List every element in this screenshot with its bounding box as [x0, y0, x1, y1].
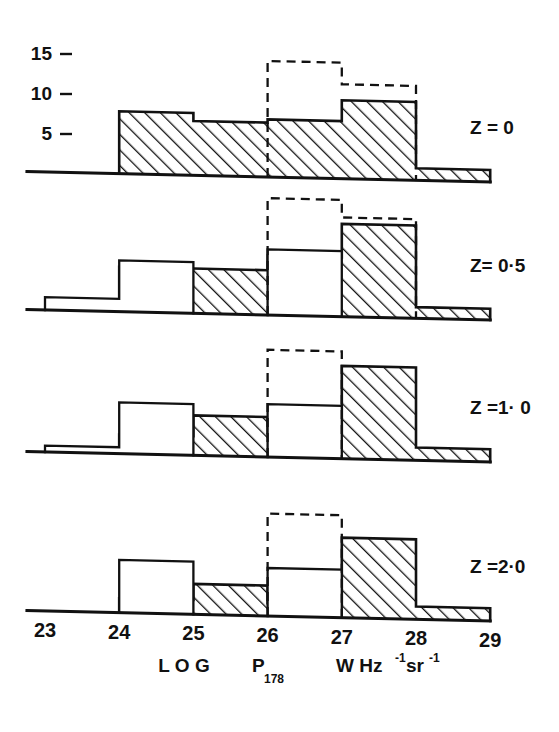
x-title-exponent-1: -1	[395, 651, 406, 665]
x-tick-label: 24	[108, 621, 131, 643]
panel-z-0-5: Z= 0·5	[27, 198, 526, 320]
outline-region-fill	[268, 404, 342, 459]
x-title-exponent-2: -1	[429, 651, 440, 665]
x-axis: 23242526272829	[34, 619, 501, 651]
panel-z-1: Z =1· 0	[27, 350, 531, 462]
x-tick-label: 25	[182, 622, 204, 644]
figure-root: Z = 0Z= 0·5Z =1· 0Z =2·0 151052324252627…	[0, 0, 559, 732]
panels-layer: Z = 0Z= 0·5Z =1· 0Z =2·0	[27, 61, 531, 621]
outline-region-fill	[268, 249, 342, 316]
x-tick-label: 27	[331, 626, 353, 648]
panel-z-label: Z =2·0	[470, 556, 525, 577]
outline-region-fill	[268, 568, 342, 618]
x-tick-label: 26	[256, 624, 278, 646]
y-tick-label: 10	[31, 83, 52, 104]
x-tick-label: 23	[34, 619, 56, 641]
panel-z-2: Z =2·0	[27, 514, 525, 621]
y-axis: 15105	[31, 43, 72, 144]
y-tick-label: 15	[31, 43, 53, 64]
y-tick-label: 5	[41, 123, 52, 144]
x-tick-label: 29	[479, 629, 501, 651]
x-title-units-sr: sr	[406, 655, 425, 676]
x-title-log: L O G	[158, 655, 209, 676]
panel-z-0: Z = 0	[27, 61, 514, 182]
histogram-figure: Z = 0Z= 0·5Z =1· 0Z =2·0 151052324252627…	[0, 0, 559, 732]
x-tick-label: 28	[405, 627, 427, 649]
panel-z-label: Z= 0·5	[470, 255, 526, 276]
panel-z-label: Z = 0	[470, 117, 514, 138]
x-title-subscript: 178	[264, 672, 284, 686]
x-axis-title: L O GP178W Hz-1sr-1	[158, 651, 440, 686]
outline-region-fill	[119, 560, 193, 614]
x-title-units-w: W Hz	[336, 655, 382, 676]
panel-z-label: Z =1· 0	[470, 397, 531, 418]
